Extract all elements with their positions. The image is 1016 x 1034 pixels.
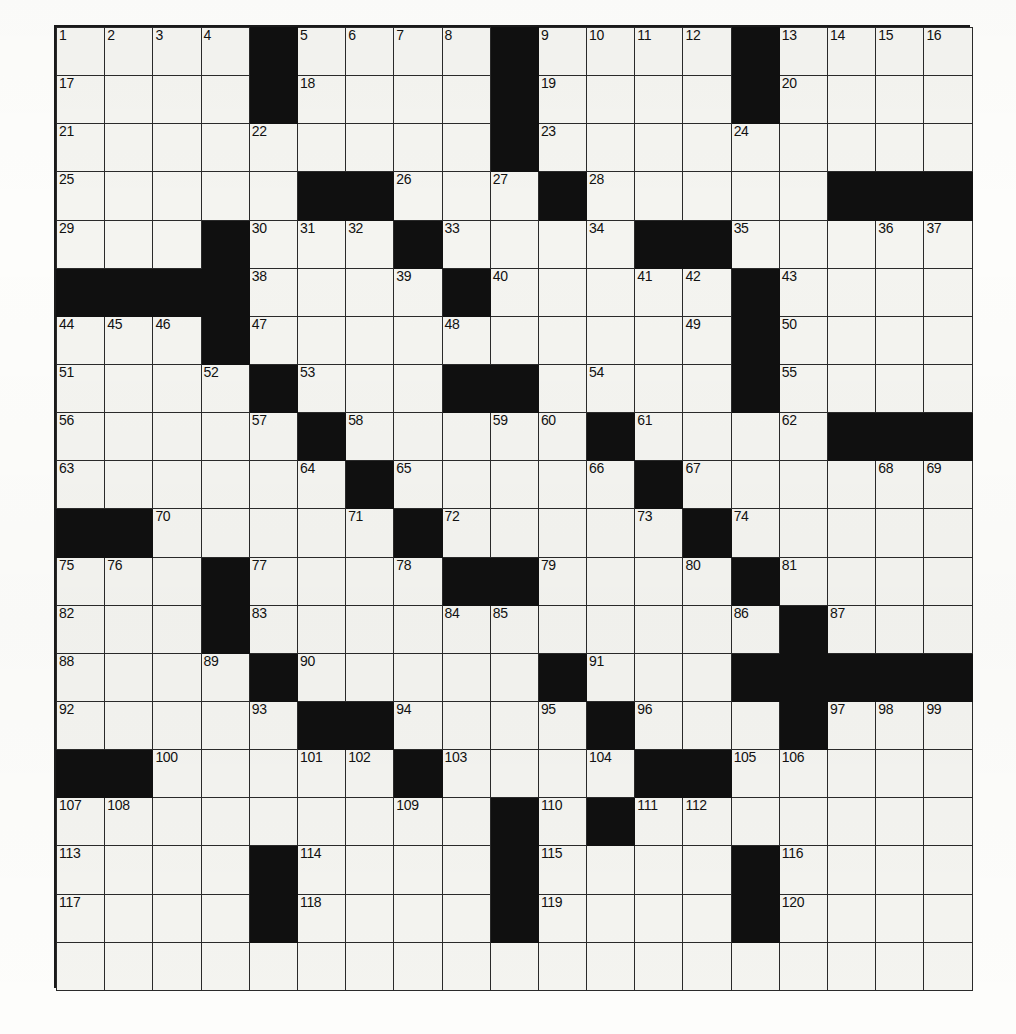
letter-cell[interactable]: 116 [779,846,827,894]
letter-cell[interactable] [587,509,635,557]
letter-cell[interactable]: 15 [876,28,924,76]
letter-cell[interactable] [442,172,490,220]
letter-cell[interactable] [394,605,442,653]
letter-cell[interactable] [779,942,827,990]
letter-cell[interactable]: 54 [587,364,635,412]
letter-cell[interactable]: 113 [57,846,105,894]
letter-cell[interactable] [201,846,249,894]
letter-cell[interactable]: 80 [683,557,731,605]
letter-cell[interactable]: 98 [876,701,924,749]
crossword-table[interactable]: 1234567891011121314151617181920212223242… [56,27,973,991]
letter-cell[interactable] [924,557,972,605]
letter-cell[interactable]: 94 [394,701,442,749]
letter-cell[interactable] [635,172,683,220]
letter-cell[interactable] [635,894,683,942]
letter-cell[interactable]: 6 [346,28,394,76]
letter-cell[interactable] [490,461,538,509]
letter-cell[interactable] [249,798,297,846]
letter-cell[interactable] [683,124,731,172]
letter-cell[interactable] [538,942,586,990]
letter-cell[interactable] [346,364,394,412]
letter-cell[interactable] [346,846,394,894]
letter-cell[interactable]: 10 [587,28,635,76]
letter-cell[interactable] [683,413,731,461]
letter-cell[interactable]: 51 [57,364,105,412]
letter-cell[interactable] [828,509,876,557]
letter-cell[interactable]: 64 [297,461,345,509]
letter-cell[interactable] [394,413,442,461]
letter-cell[interactable] [876,509,924,557]
letter-cell[interactable] [201,942,249,990]
letter-cell[interactable]: 56 [57,413,105,461]
letter-cell[interactable]: 110 [538,798,586,846]
letter-cell[interactable] [153,942,201,990]
letter-cell[interactable]: 59 [490,413,538,461]
letter-cell[interactable]: 117 [57,894,105,942]
letter-cell[interactable]: 47 [249,316,297,364]
letter-cell[interactable]: 52 [201,364,249,412]
letter-cell[interactable] [683,653,731,701]
letter-cell[interactable]: 39 [394,268,442,316]
letter-cell[interactable]: 58 [346,413,394,461]
letter-cell[interactable]: 75 [57,557,105,605]
letter-cell[interactable] [876,942,924,990]
letter-cell[interactable] [828,846,876,894]
letter-cell[interactable] [635,846,683,894]
letter-cell[interactable]: 86 [731,605,779,653]
letter-cell[interactable]: 106 [779,750,827,798]
letter-cell[interactable] [153,653,201,701]
letter-cell[interactable]: 66 [587,461,635,509]
letter-cell[interactable]: 7 [394,28,442,76]
letter-cell[interactable] [924,509,972,557]
letter-cell[interactable] [828,124,876,172]
letter-cell[interactable] [105,172,153,220]
letter-cell[interactable] [153,798,201,846]
letter-cell[interactable] [731,461,779,509]
letter-cell[interactable]: 74 [731,509,779,557]
letter-cell[interactable] [105,76,153,124]
letter-cell[interactable]: 96 [635,701,683,749]
letter-cell[interactable]: 48 [442,316,490,364]
letter-cell[interactable] [538,316,586,364]
letter-cell[interactable] [394,76,442,124]
letter-cell[interactable]: 43 [779,268,827,316]
letter-cell[interactable]: 91 [587,653,635,701]
letter-cell[interactable] [876,76,924,124]
letter-cell[interactable] [297,942,345,990]
letter-cell[interactable] [828,220,876,268]
letter-cell[interactable] [153,894,201,942]
letter-cell[interactable] [297,798,345,846]
letter-cell[interactable] [924,268,972,316]
letter-cell[interactable] [105,364,153,412]
letter-cell[interactable]: 105 [731,750,779,798]
letter-cell[interactable] [442,701,490,749]
letter-cell[interactable]: 1 [57,28,105,76]
letter-cell[interactable] [105,894,153,942]
letter-cell[interactable] [683,846,731,894]
letter-cell[interactable]: 83 [249,605,297,653]
letter-cell[interactable] [635,316,683,364]
letter-cell[interactable]: 50 [779,316,827,364]
letter-cell[interactable] [828,894,876,942]
letter-cell[interactable] [924,750,972,798]
letter-cell[interactable] [538,509,586,557]
letter-cell[interactable] [394,942,442,990]
letter-cell[interactable] [442,798,490,846]
letter-cell[interactable]: 67 [683,461,731,509]
letter-cell[interactable]: 36 [876,220,924,268]
letter-cell[interactable] [538,750,586,798]
letter-cell[interactable] [587,76,635,124]
letter-cell[interactable] [346,557,394,605]
letter-cell[interactable] [201,798,249,846]
letter-cell[interactable]: 90 [297,653,345,701]
letter-cell[interactable] [731,942,779,990]
letter-cell[interactable] [346,894,394,942]
letter-cell[interactable]: 22 [249,124,297,172]
letter-cell[interactable] [779,124,827,172]
letter-cell[interactable] [105,124,153,172]
letter-cell[interactable] [876,605,924,653]
letter-cell[interactable] [876,364,924,412]
letter-cell[interactable] [153,413,201,461]
letter-cell[interactable] [876,316,924,364]
letter-cell[interactable] [346,268,394,316]
